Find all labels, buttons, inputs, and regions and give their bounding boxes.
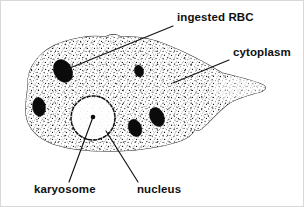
label-ingested-rbc: ingested RBC [177,11,254,23]
label-cytoplasm: cytoplasm [233,46,291,58]
amoeba-diagram-figure: ingested RBC cytoplasm karyosome nucleus [0,0,304,207]
cytoplasm-stipple-group [1,1,304,207]
label-nucleus: nucleus [137,183,181,195]
cytoplasm-stipple-layer-3 [1,1,304,207]
pseudopod-clear-zone [213,76,265,102]
label-karyosome: karyosome [34,183,96,195]
diagram-canvas: ingested RBC cytoplasm karyosome nucleus [1,1,304,207]
